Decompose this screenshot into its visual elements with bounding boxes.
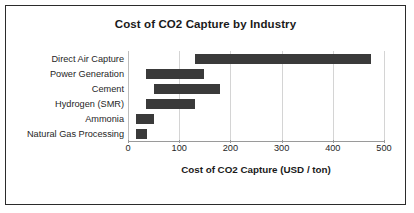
bar-row [128, 81, 384, 96]
bar-row [128, 96, 384, 111]
bar-row [128, 111, 384, 126]
category-label: Natural Gas Processing [14, 126, 128, 141]
bar-row [128, 126, 384, 141]
bar[interactable] [146, 69, 204, 79]
x-tick-label: 300 [274, 143, 289, 153]
x-axis-ticks: 0100200300400500 [128, 143, 384, 159]
x-axis-title: Cost of CO2 Capture (USD / ton) [128, 164, 384, 175]
category-label: Power Generation [14, 66, 128, 81]
plot-wrapper: Direct Air Capture Power Generation Ceme… [6, 6, 405, 204]
x-tick-label: 0 [125, 143, 130, 153]
bar[interactable] [146, 99, 195, 109]
chart-container: Cost of CO2 Capture by Industry Direct A… [5, 5, 406, 205]
category-label: Direct Air Capture [14, 51, 128, 66]
bar[interactable] [136, 114, 154, 124]
category-axis: Direct Air Capture Power Generation Ceme… [14, 51, 128, 141]
gridline [384, 51, 385, 141]
bar-row [128, 51, 384, 66]
bar[interactable] [195, 54, 372, 64]
bar[interactable] [154, 84, 221, 94]
x-tick-label: 100 [172, 143, 187, 153]
x-tick-label: 400 [325, 143, 340, 153]
x-tick-label: 500 [376, 143, 391, 153]
bar-row [128, 66, 384, 81]
x-tick-label: 200 [223, 143, 238, 153]
bar-group [128, 51, 384, 141]
category-label: Hydrogen (SMR) [14, 96, 128, 111]
category-label: Cement [14, 81, 128, 96]
x-axis-line [128, 141, 384, 142]
category-label: Ammonia [14, 111, 128, 126]
plot-area [128, 51, 384, 141]
bar[interactable] [136, 129, 147, 139]
